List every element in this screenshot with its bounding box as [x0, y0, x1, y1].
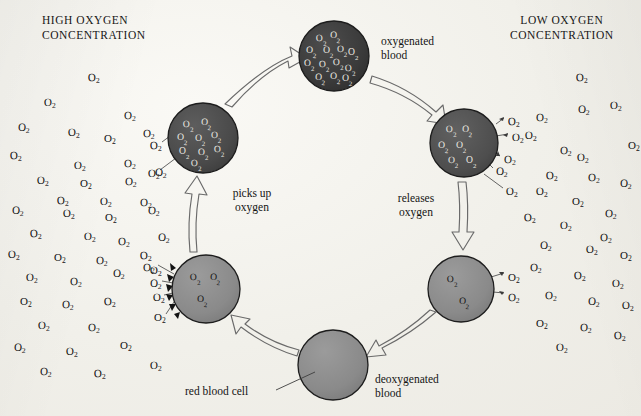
oxygen-molecule-edge: O2	[512, 132, 524, 144]
oxygen-molecule-in-cell: O2	[330, 71, 341, 85]
oxygen-molecule-in-cell: O2	[190, 272, 201, 286]
oxygen-molecule: O2	[540, 240, 552, 252]
oxygen-molecule-in-cell: O2	[201, 117, 212, 131]
oxygen-molecule-in-cell: O2	[446, 124, 457, 138]
oxygen-molecule-in-cell: O2	[438, 140, 449, 154]
oxygen-molecule-in-cell: O2	[348, 47, 358, 61]
oxygen-molecule: O2	[536, 318, 548, 330]
oxygen-molecule: O2	[536, 112, 548, 124]
oxygen-molecule: O2	[88, 72, 100, 84]
oxygen-molecule: O2	[574, 270, 586, 282]
oxygen-molecule: O2	[536, 186, 548, 198]
oxygen-molecule-edge: O2	[154, 312, 166, 324]
oxygen-molecule: O2	[18, 122, 30, 134]
oxygen-molecule: O2	[545, 290, 557, 302]
oxygen-molecule-in-cell: O2	[330, 30, 341, 44]
oxygen-molecule: O2	[578, 104, 590, 116]
oxygen-molecule: O2	[610, 100, 622, 112]
oxygen-molecule: O2	[8, 249, 20, 261]
oxygen-molecule: O2	[66, 346, 78, 358]
flow-arrow-releasing-to-deoxy	[452, 182, 474, 250]
oxygen-molecule: O2	[113, 268, 125, 280]
oxygen-molecule: O2	[38, 320, 50, 332]
oxygen-molecule-in-cell: O2	[466, 155, 476, 169]
oxygen-molecule: O2	[84, 231, 96, 243]
oxygen-molecule-edge: O2	[143, 262, 155, 274]
oxygen-molecule: O2	[622, 300, 634, 312]
oxygen-molecule-edge: O2	[150, 140, 162, 152]
oxygen-molecule: O2	[588, 296, 600, 308]
oxygen-molecule-edge: O2	[496, 166, 508, 178]
oxygen-molecule: O2	[118, 236, 130, 248]
oxygen-molecule-in-cell: O2	[177, 132, 188, 146]
oxygen-molecule-edge: O2	[508, 292, 520, 304]
flow-arrow-deoxy-to-bottom	[366, 310, 436, 357]
oxygen-molecule: O2	[628, 140, 640, 152]
oxygen-molecule-in-cell: O2	[210, 272, 221, 286]
oxygen-molecule-in-cell: O2	[456, 140, 467, 154]
oxygen-molecule: O2	[525, 130, 537, 142]
flow-arrow-picking-to-loaded	[185, 176, 207, 252]
oxygen-molecule: O2	[620, 250, 632, 262]
oxygen-molecule: O2	[104, 133, 116, 145]
oxygen-molecule: O2	[524, 212, 536, 224]
oxygen-molecule: O2	[556, 342, 568, 354]
oxygen-molecule-in-cell: O2	[197, 294, 208, 308]
oxygen-molecule: O2	[612, 278, 624, 290]
oxygen-molecule: O2	[10, 150, 22, 162]
label-red-blood-cell: red blood cell	[185, 384, 248, 398]
oxygen-molecule: O2	[605, 208, 617, 220]
oxygen-molecule: O2	[580, 322, 592, 334]
oxygen-molecule-in-cell: O2	[342, 73, 353, 87]
oxygen-molecule: O2	[14, 342, 26, 354]
oxygen-molecule: O2	[74, 160, 86, 172]
oxygen-molecule: O2	[96, 255, 108, 267]
oxygen-molecule: O2	[124, 110, 136, 122]
oxygen-molecule: O2	[124, 158, 136, 170]
oxygen-molecule: O2	[40, 366, 52, 378]
flow-arrow-oxygenated-to-releasing	[370, 76, 446, 124]
oxygen-molecule: O2	[62, 299, 74, 311]
oxygen-molecule-in-cell: O2	[211, 130, 222, 144]
oxygen-molecule-edge: O2	[508, 272, 520, 284]
oxygen-molecule-in-cell: O2	[448, 155, 459, 169]
oxygen-molecule: O2	[120, 340, 132, 352]
oxygen-molecule-in-cell: O2	[304, 58, 315, 72]
oxygen-molecule-edge: O2	[150, 278, 162, 290]
oxygen-molecule: O2	[80, 178, 92, 190]
oxygen-molecule: O2	[588, 172, 600, 184]
oxygen-molecule-in-cell: O2	[214, 144, 225, 158]
cell-deoxygenated-bottom	[298, 330, 368, 400]
oxygen-molecule-in-cell: O2	[315, 72, 326, 86]
oxygen-molecule: O2	[54, 252, 66, 264]
oxygen-molecule: O2	[94, 368, 106, 380]
oxygen-molecule: O2	[26, 272, 38, 284]
oxygen-molecule: O2	[63, 208, 75, 220]
oxygen-molecule: O2	[30, 228, 42, 240]
oxygen-molecule-in-cell: O2	[333, 57, 344, 71]
label-deoxygenated-blood: deoxygenated blood	[375, 372, 439, 400]
cell-picking-up-left-lower	[172, 255, 240, 323]
oxygen-molecule: O2	[37, 175, 49, 187]
oxygen-molecule: O2	[100, 196, 112, 208]
oxygen-molecule: O2	[57, 195, 69, 207]
oxygen-molecule-in-cell: O2	[462, 124, 473, 138]
oxygen-molecule: O2	[620, 178, 632, 190]
oxygen-molecule: O2	[88, 322, 100, 334]
oxygen-molecule: O2	[546, 170, 558, 182]
oxygen-molecule: O2	[530, 262, 542, 274]
oxygen-molecule: O2	[70, 276, 82, 288]
oxygen-molecule: O2	[600, 232, 612, 244]
oxygen-molecule-in-cell: O2	[195, 133, 206, 147]
oxygen-molecule-edge: O2	[506, 186, 518, 198]
oxygen-molecule: O2	[150, 360, 162, 372]
diagram-canvas: HIGH OXYGEN CONCENTRATION LOW OXYGEN CON…	[0, 0, 641, 416]
oxygen-molecule: O2	[586, 244, 598, 256]
oxygen-molecule: O2	[576, 72, 588, 84]
flow-arrow-bottom-to-picking	[231, 315, 299, 356]
oxygen-molecule: O2	[12, 205, 24, 217]
label-picks-up-oxygen: picks up oxygen	[216, 186, 288, 214]
oxygen-molecule: O2	[44, 97, 56, 109]
cell-deoxygenated-right-lower	[428, 256, 494, 322]
oxygen-molecule: O2	[577, 152, 589, 164]
